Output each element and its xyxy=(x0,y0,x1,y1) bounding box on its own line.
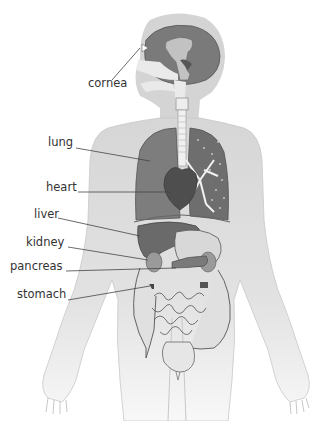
label-heart: heart xyxy=(46,182,77,194)
anatomy-diagram: cornea lung heart liver kidney pancreas … xyxy=(0,0,316,421)
label-kidney: kidney xyxy=(26,237,64,249)
label-lung: lung xyxy=(48,137,73,149)
label-pancreas: pancreas xyxy=(10,261,63,273)
label-cornea: cornea xyxy=(88,78,127,90)
trachea xyxy=(176,98,188,166)
adrenal-right xyxy=(200,282,208,288)
label-liver: liver xyxy=(34,209,59,221)
label-stomach: stomach xyxy=(17,289,66,301)
